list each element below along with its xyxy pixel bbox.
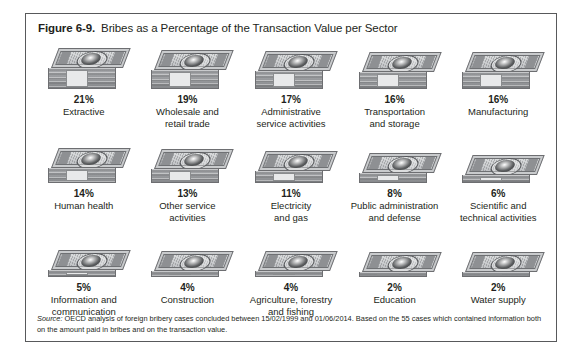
banknote-face: [154, 251, 234, 271]
sector-percentage: 13%: [177, 187, 197, 200]
sector-percentage: 14%: [74, 187, 94, 200]
sector-percentage: 16%: [385, 93, 405, 106]
money-band: [377, 274, 399, 276]
money-stack: [460, 52, 536, 89]
money-stack-icon: [239, 42, 343, 90]
money-stack-body: [48, 270, 116, 277]
banknote-face: [465, 252, 545, 272]
money-stack-icon: [446, 42, 550, 90]
money-stack-icon: [446, 136, 550, 184]
figure-number: Figure 6-9.: [38, 22, 95, 34]
sector-cell: 2%Education: [343, 230, 447, 324]
sector-cell: 14%Human health: [32, 136, 136, 230]
sector-cell: 2%Water supply: [446, 230, 550, 324]
sector-label: Other service activities: [159, 200, 216, 223]
sector-label: Education: [373, 294, 415, 306]
money-stack-body: [255, 71, 323, 89]
money-band: [377, 74, 399, 87]
banknote-face: [465, 155, 545, 175]
sector-label: Scientific and technical activities: [460, 200, 537, 223]
money-stack-body: [151, 70, 219, 89]
sector-percentage: 2%: [491, 281, 505, 294]
banknote-face: [258, 151, 338, 171]
money-stack-body: [151, 169, 219, 183]
sector-percentage: 21%: [74, 93, 94, 106]
sector-label: Water supply: [471, 294, 526, 306]
sector-row: 14%Human health13%Other service activiti…: [32, 136, 550, 230]
money-band: [273, 73, 295, 87]
money-stack-body: [255, 271, 323, 277]
money-stack-icon: [32, 42, 136, 90]
money-stack-icon: [239, 230, 343, 278]
money-stack-body: [462, 272, 530, 277]
money-stack-body: [359, 272, 427, 277]
banknote-face: [51, 148, 131, 168]
money-band: [66, 272, 88, 275]
money-stack: [460, 155, 536, 183]
banknote-face: [258, 251, 338, 271]
money-stack: [357, 52, 433, 89]
money-stack-body: [48, 68, 116, 89]
sector-label: Construction: [161, 294, 214, 306]
money-stack: [357, 153, 433, 183]
money-stack-body: [462, 72, 530, 89]
sector-cell: 17%Administrative service activities: [239, 42, 343, 136]
money-stack: [149, 149, 225, 183]
sector-percentage: 6%: [491, 187, 505, 200]
money-stack: [253, 51, 329, 89]
sector-label: Manufacturing: [468, 106, 528, 118]
money-band: [377, 175, 399, 181]
source-text: OECD analysis of foreign bribery cases c…: [37, 314, 541, 334]
sector-cell: 16%Transportation and storage: [343, 42, 447, 136]
source-note: Source: OECD analysis of foreign bribery…: [37, 314, 545, 335]
money-stack-icon: [446, 230, 550, 278]
money-band: [480, 74, 502, 87]
sector-percentage: 16%: [488, 93, 508, 106]
banknote-face: [154, 50, 234, 70]
money-stack: [46, 250, 122, 277]
money-stack-icon: [343, 230, 447, 278]
sector-percentage: 5%: [77, 281, 91, 294]
sector-cell: 5%Information and communication: [32, 230, 136, 324]
sector-cell: 4%Agriculture, forestry and fishing: [239, 230, 343, 324]
banknote-face: [258, 51, 338, 71]
sector-label: Administrative service activities: [256, 106, 325, 129]
banknote-face: [362, 52, 442, 72]
sector-cell: 11%Electricity and gas: [239, 136, 343, 230]
money-stack-body: [255, 171, 323, 183]
sector-cell: 6%Scientific and technical activities: [446, 136, 550, 230]
sector-label: Public administration and defense: [351, 200, 439, 223]
money-band: [169, 72, 191, 87]
money-stack: [46, 148, 122, 183]
sector-percentage: 8%: [387, 187, 401, 200]
sector-cell: 8%Public administration and defense: [343, 136, 447, 230]
money-stack-icon: [343, 42, 447, 90]
money-band: [66, 170, 88, 181]
sector-label: Human health: [54, 200, 113, 212]
money-stack: [46, 48, 122, 89]
money-band: [273, 273, 295, 275]
money-stack-icon: [136, 42, 240, 90]
money-stack-body: [151, 271, 219, 277]
money-stack-body: [462, 175, 530, 183]
page-title: Bribes as a Percentage of the Transactio…: [101, 22, 397, 34]
sector-cell: 19%Wholesale and retail trade: [136, 42, 240, 136]
sector-row: 21%Extractive19%Wholesale and retail tra…: [32, 42, 550, 136]
money-band: [66, 70, 88, 87]
money-stack-icon: [239, 136, 343, 184]
money-stack-icon: [32, 230, 136, 278]
figure-title-bar: Figure 6-9. Bribes as a Percentage of th…: [26, 14, 556, 42]
money-stack-icon: [32, 136, 136, 184]
money-stack: [460, 252, 536, 277]
sector-percentage: 11%: [281, 187, 300, 200]
money-stack-body: [359, 173, 427, 183]
banknote-face: [51, 48, 131, 68]
sector-label: Transportation and storage: [364, 106, 425, 129]
figure-container: Figure 6-9. Bribes as a Percentage of th…: [25, 13, 557, 342]
banknote-face: [465, 52, 545, 72]
sector-cell: 4%Construction: [136, 230, 240, 324]
sector-percentage: 19%: [177, 93, 197, 106]
sector-percentage: 17%: [281, 93, 301, 106]
sector-cell: 21%Extractive: [32, 42, 136, 136]
money-stack: [149, 50, 225, 89]
